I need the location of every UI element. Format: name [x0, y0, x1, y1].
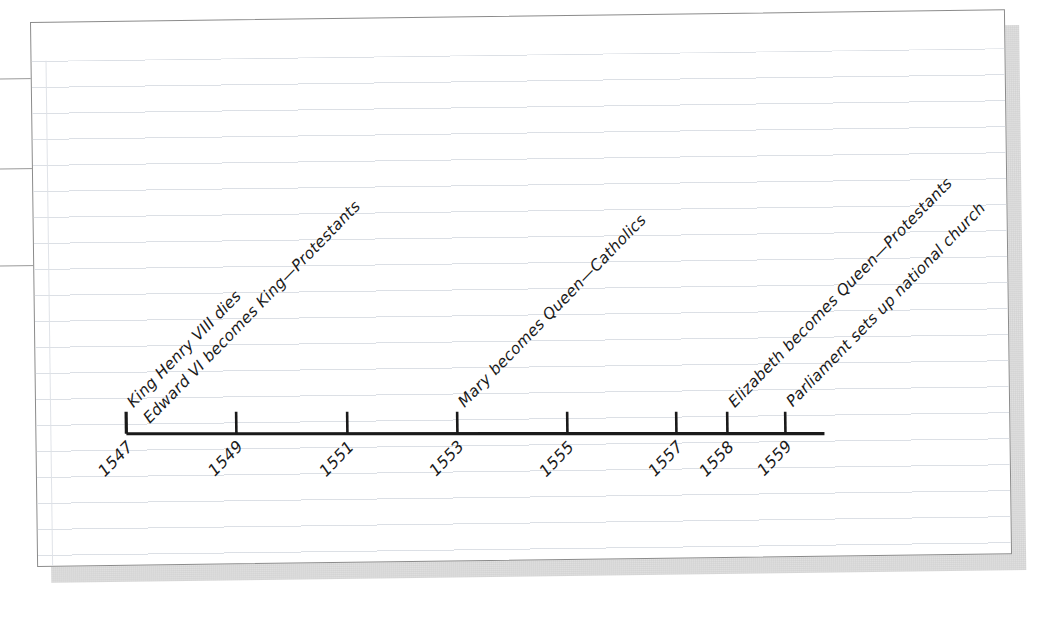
- notebook-page: 15471549155115531555155715581559 King He…: [30, 9, 1012, 567]
- timeline-axis-svg: [31, 10, 1012, 567]
- screenshot-canvas: 15471549155115531555155715581559 King He…: [0, 0, 1045, 617]
- timeline: 15471549155115531555155715581559 King He…: [31, 10, 1012, 567]
- notebook-page-wrapper: 15471549155115531555155715581559 King He…: [30, 9, 1012, 567]
- timeline-axis-group: [126, 403, 824, 443]
